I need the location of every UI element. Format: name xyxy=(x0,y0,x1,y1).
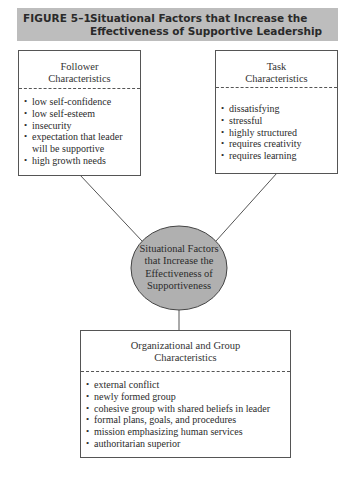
connector-follower xyxy=(80,175,142,241)
task-heading-line-2: Characteristics xyxy=(216,73,337,85)
task-heading-line-1: Task xyxy=(216,61,337,73)
list-item: stressful xyxy=(221,115,333,127)
list-item: expectation that leader will be supporti… xyxy=(24,131,136,155)
task-box-divider xyxy=(216,87,337,88)
org-group-characteristics-box: Organizational and Group Characteristics… xyxy=(80,330,291,458)
list-item: low self-esteem xyxy=(24,108,136,120)
list-item: highly structured xyxy=(221,127,333,139)
connector-task xyxy=(216,173,277,241)
list-item: external conflict xyxy=(86,379,286,391)
list-item: insecurity xyxy=(24,120,136,132)
list-item: requires creativity xyxy=(221,138,333,150)
list-item: dissatisfying xyxy=(221,103,333,115)
center-node-label: Situational Factors that Increase the Ef… xyxy=(131,243,227,293)
list-item: authoritarian superior xyxy=(86,438,286,450)
list-item: cohesive group with shared beliefs in le… xyxy=(86,403,286,415)
follower-items-list: low self-confidence low self-esteem inse… xyxy=(24,96,136,167)
task-box-heading: Task Characteristics xyxy=(216,51,337,85)
org-items-list: external conflict newly formed group coh… xyxy=(86,379,286,450)
center-node-line-1: Situational Factors xyxy=(131,243,227,255)
follower-box-heading: Follower Characteristics xyxy=(19,51,140,85)
list-item: formal plans, goals, and procedures xyxy=(86,414,286,426)
org-box-divider xyxy=(81,371,290,372)
center-node-line-2: that Increase the xyxy=(131,255,227,267)
list-item: newly formed group xyxy=(86,391,286,403)
center-node-line-3: Effectiveness of xyxy=(131,268,227,280)
list-item: high growth needs xyxy=(24,155,136,167)
task-characteristics-box: Task Characteristics dissatisfying stres… xyxy=(215,50,338,174)
follower-box-divider xyxy=(19,88,140,89)
list-item: low self-confidence xyxy=(24,96,136,108)
list-item: mission emphasizing human services xyxy=(86,426,286,438)
center-node-line-4: Supportiveness xyxy=(131,280,227,292)
org-heading-line-2: Characteristics xyxy=(81,352,290,364)
task-items-list: dissatisfying stressful highly structure… xyxy=(221,103,333,162)
org-box-heading: Organizational and Group Characteristics xyxy=(81,331,290,364)
list-item: requires learning xyxy=(221,150,333,162)
follower-heading-line-2: Characteristics xyxy=(19,73,140,85)
org-heading-line-1: Organizational and Group xyxy=(81,340,290,352)
follower-heading-line-1: Follower xyxy=(19,61,140,73)
follower-characteristics-box: Follower Characteristics low self-confid… xyxy=(18,50,141,176)
